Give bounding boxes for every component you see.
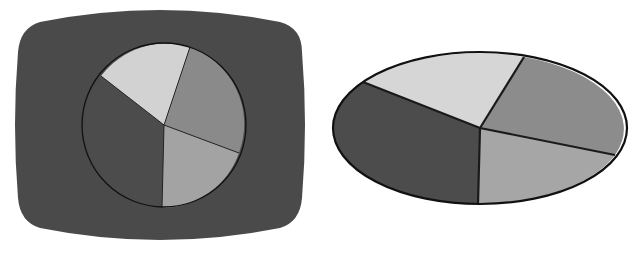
right-ellipse-pie-chart [333, 52, 627, 204]
chart-figure [0, 0, 640, 253]
pie-charts-canvas [0, 0, 640, 253]
